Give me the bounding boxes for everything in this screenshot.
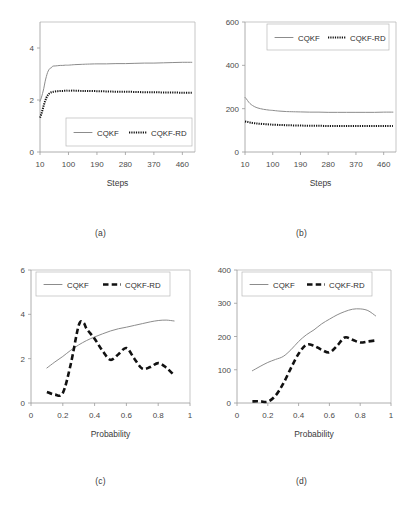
y-tick-label: 100 bbox=[218, 366, 232, 375]
panel-a-caption: (a) bbox=[0, 228, 201, 238]
panel-c-caption: (c) bbox=[0, 476, 201, 486]
x-tick-label: 0.8 bbox=[153, 411, 165, 420]
y-tick-label: 600 bbox=[226, 18, 240, 27]
legend-label-cqkf-rd: CQKF-RD bbox=[350, 34, 386, 43]
x-tick-label: 190 bbox=[90, 160, 104, 169]
x-tick-label: 460 bbox=[176, 160, 190, 169]
legend-label-cqkf-rd: CQKF-RD bbox=[151, 129, 187, 138]
legend-label-cqkf: CQKF bbox=[273, 281, 295, 290]
panel-b-svg: 020040060010100190280370460StepsCQKFCQKF… bbox=[201, 0, 402, 200]
x-tick-label: 280 bbox=[119, 160, 133, 169]
legend-label-cqkf: CQKF bbox=[67, 281, 89, 290]
panel-b: 020040060010100190280370460StepsCQKFCQKF… bbox=[201, 0, 402, 254]
figure-container: 02410100190280370460StepsCQKFCQKF-RD (a)… bbox=[0, 0, 402, 508]
y-tick-label: 6 bbox=[21, 266, 26, 275]
panel-a-plot: 02410100190280370460StepsCQKFCQKF-RD bbox=[0, 0, 201, 200]
x-axis-title: Steps bbox=[310, 178, 332, 188]
legend-label-cqkf-rd: CQKF-RD bbox=[329, 281, 365, 290]
x-tick-label: 0.2 bbox=[262, 411, 274, 420]
y-tick-label: 200 bbox=[226, 105, 240, 114]
y-tick-label: 0 bbox=[235, 148, 240, 157]
x-axis-title: Probability bbox=[294, 429, 334, 439]
x-tick-label: 100 bbox=[62, 160, 76, 169]
y-tick-label: 400 bbox=[226, 61, 240, 70]
y-tick-label: 4 bbox=[21, 310, 26, 319]
series-line-cqkf-rd bbox=[40, 91, 192, 118]
x-tick-label: 190 bbox=[294, 160, 308, 169]
y-tick-label: 0 bbox=[21, 399, 26, 408]
series-line-cqkf bbox=[40, 62, 192, 101]
x-tick-label: 1 bbox=[389, 411, 394, 420]
plot-group-d: 010020030040000.20.40.60.81ProbabilityCQ… bbox=[218, 266, 394, 439]
legend-label-cqkf-rd: CQKF-RD bbox=[125, 281, 161, 290]
x-tick-label: 0 bbox=[235, 411, 240, 420]
panel-c-plot: 024600.20.40.60.81ProbabilityCQKFCQKF-RD bbox=[0, 254, 201, 454]
panel-c: 024600.20.40.60.81ProbabilityCQKFCQKF-RD… bbox=[0, 254, 201, 508]
x-tick-label: 0.6 bbox=[324, 411, 336, 420]
x-tick-label: 10 bbox=[241, 160, 250, 169]
panel-d: 010020030040000.20.40.60.81ProbabilityCQ… bbox=[201, 254, 402, 508]
panel-c-svg: 024600.20.40.60.81ProbabilityCQKFCQKF-RD bbox=[0, 254, 201, 454]
x-tick-label: 0.8 bbox=[355, 411, 367, 420]
panel-d-svg: 010020030040000.20.40.60.81ProbabilityCQ… bbox=[201, 254, 402, 454]
y-tick-label: 2 bbox=[21, 355, 26, 364]
plot-group-a: 02410100190280370460StepsCQKFCQKF-RD bbox=[30, 22, 195, 188]
x-tick-label: 100 bbox=[266, 160, 280, 169]
series-line-cqkf bbox=[252, 309, 375, 371]
panel-d-caption: (d) bbox=[201, 476, 402, 486]
x-tick-label: 0.4 bbox=[89, 411, 101, 420]
legend-label-cqkf: CQKF bbox=[97, 129, 119, 138]
plot-group-c: 024600.20.40.60.81ProbabilityCQKFCQKF-RD bbox=[21, 266, 193, 439]
x-tick-label: 0.4 bbox=[293, 411, 305, 420]
x-tick-label: 0.6 bbox=[121, 411, 133, 420]
panel-b-plot: 020040060010100190280370460StepsCQKFCQKF… bbox=[201, 0, 402, 200]
x-tick-label: 370 bbox=[147, 160, 161, 169]
x-tick-label: 10 bbox=[36, 160, 45, 169]
y-tick-label: 400 bbox=[218, 266, 232, 275]
x-tick-label: 1 bbox=[188, 411, 193, 420]
series-line-cqkf bbox=[245, 97, 393, 112]
plot-group-b: 020040060010100190280370460StepsCQKFCQKF… bbox=[226, 18, 396, 188]
y-tick-label: 300 bbox=[218, 299, 232, 308]
panel-a: 02410100190280370460StepsCQKFCQKF-RD (a) bbox=[0, 0, 201, 254]
x-tick-label: 280 bbox=[322, 160, 336, 169]
panel-b-caption: (b) bbox=[201, 228, 402, 238]
x-axis-title: Steps bbox=[107, 178, 129, 188]
x-axis-title: Probability bbox=[91, 429, 131, 439]
panel-a-svg: 02410100190280370460StepsCQKFCQKF-RD bbox=[0, 0, 201, 200]
x-tick-label: 0 bbox=[29, 411, 34, 420]
series-line-cqkf-rd bbox=[252, 337, 375, 402]
panel-d-plot: 010020030040000.20.40.60.81ProbabilityCQ… bbox=[201, 254, 402, 454]
x-tick-label: 370 bbox=[349, 160, 363, 169]
series-line-cqkf-rd bbox=[47, 321, 174, 396]
x-tick-label: 0.2 bbox=[57, 411, 69, 420]
legend-label-cqkf: CQKF bbox=[298, 34, 320, 43]
y-tick-label: 200 bbox=[218, 333, 232, 342]
y-tick-label: 2 bbox=[30, 96, 35, 105]
series-line-cqkf-rd bbox=[245, 121, 393, 126]
x-tick-label: 460 bbox=[377, 160, 391, 169]
y-tick-label: 4 bbox=[30, 44, 35, 53]
y-tick-label: 0 bbox=[30, 148, 35, 157]
y-tick-label: 0 bbox=[227, 399, 232, 408]
